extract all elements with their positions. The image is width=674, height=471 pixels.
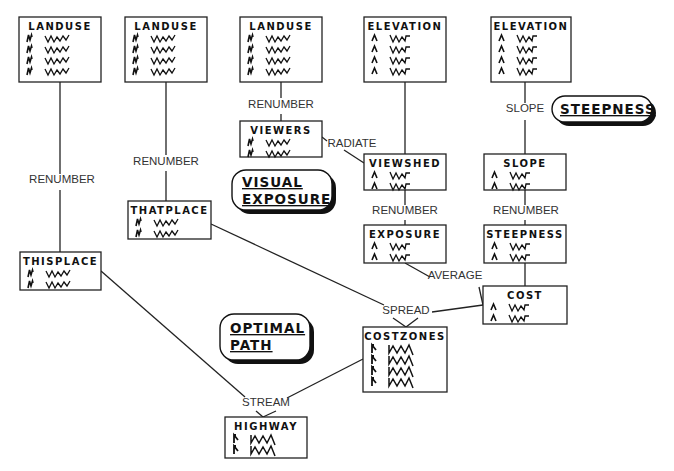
node-slope: SLOPE [484, 154, 566, 190]
op-renumber-2-label: RENUMBER [133, 155, 199, 167]
node-title: SLOPE [503, 158, 546, 169]
theme-steepness-line-1: STEEPNESS [560, 101, 656, 117]
connector-line [322, 137, 327, 141]
op-renumber-3-label: RENUMBER [248, 98, 314, 110]
node-title: LANDUSE [249, 21, 312, 32]
op-renumber-1-label: RENUMBER [29, 173, 95, 185]
theme-visual-exposure-line-2: EXPOSURE [242, 191, 331, 207]
node-title: HIGHWAY [234, 421, 298, 432]
connector-line [263, 411, 276, 417]
op-radiate-label: RADIATE [328, 137, 377, 149]
node-cost: COST [483, 286, 567, 324]
op-renumber-4-label: RENUMBER [372, 204, 438, 216]
connector-line [406, 318, 418, 327]
connector-line [405, 263, 430, 277]
node-elevation1: ELEVATION [364, 17, 446, 82]
node-landuse3: LANDUSE [240, 17, 322, 82]
connector-line [344, 150, 364, 163]
node-title: THATPLACE [130, 205, 208, 216]
node-title: ELEVATION [494, 21, 569, 32]
node-title: VIEWSHED [369, 158, 441, 169]
node-title: ELEVATION [368, 21, 443, 32]
node-thisplace: THISPLACE [20, 252, 101, 290]
node-costzones: COSTZONES [363, 327, 447, 392]
node-thatplace: THATPLACE [128, 201, 211, 239]
theme-visual-exposure: VISUAL EXPOSURE [232, 170, 336, 214]
node-highway: HIGHWAY [225, 417, 307, 458]
connector-line [287, 359, 363, 398]
node-title: COST [507, 290, 543, 301]
node-title: LANDUSE [28, 21, 91, 32]
connector-line [393, 318, 406, 327]
node-title: EXPOSURE [369, 229, 441, 240]
node-title: THISPLACE [23, 256, 98, 267]
node-elevation2: ELEVATION [491, 17, 571, 82]
theme-visual-exposure-line-1: VISUAL [242, 174, 303, 190]
op-average-label: AVERAGE [428, 269, 483, 281]
node-title: COSTZONES [364, 331, 446, 342]
optimal-path-flowchart: VISUAL EXPOSURE STEEPNESS OPTIMAL PATH L… [0, 0, 674, 471]
node-landuse2: LANDUSE [125, 17, 207, 82]
node-title: STEEPNESS [486, 229, 564, 240]
node-steepness: STEEPNESS [484, 225, 566, 263]
theme-optimal-path-line-2: PATH [230, 337, 273, 353]
connector-line [256, 411, 263, 417]
op-renumber-5-label: RENUMBER [493, 204, 559, 216]
node-viewshed: VIEWSHED [364, 154, 446, 190]
node-exposure: EXPOSURE [364, 225, 446, 263]
op-spread-label: SPREAD [382, 304, 429, 316]
node-title: VIEWERS [250, 125, 312, 136]
node-title: LANDUSE [134, 21, 197, 32]
theme-optimal-path-line-1: OPTIMAL [230, 320, 305, 336]
op-slope-label: SLOPE [506, 102, 545, 114]
theme-steepness: STEEPNESS [552, 96, 656, 126]
op-stream-label: STREAM [242, 396, 290, 408]
connector-line [432, 305, 483, 312]
node-landuse1: LANDUSE [19, 17, 101, 82]
node-viewers: VIEWERS [240, 121, 322, 157]
theme-optimal-path: OPTIMAL PATH [220, 314, 314, 364]
connector-line [211, 224, 384, 305]
